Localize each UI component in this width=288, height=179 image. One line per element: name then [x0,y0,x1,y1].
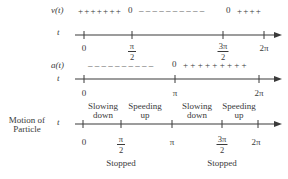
interval-slowing-down: Slowing down [88,102,118,120]
interval-slowing-down: Slowing down [182,102,212,120]
tick-label-0: 0 [82,43,87,53]
stopped-label: Stopped [106,158,136,168]
velocity-zero: 0 [128,5,134,15]
acceleration-sign-positive: + + + + + + + + + [183,60,247,70]
tick-label-pi: π [170,137,175,147]
acceleration-function-label: a(t) [51,60,64,70]
acceleration-sign-negative: – – – – – – – – – – [88,60,153,70]
row-label-line2: Particle [3,125,51,134]
fraction-denominator: 2 [220,146,224,154]
velocity-variable-label: t [57,27,60,37]
interval-line2: down [182,111,212,120]
tick-label-3pi-over-2: 3π 2 [217,135,228,154]
tick-label-pi-over-2: π 2 [117,135,125,154]
axes-layer [0,0,288,179]
acceleration-variable-label: t [57,73,60,83]
tick-label-2pi: 2π [251,137,260,147]
velocity-sign-negative: – – – – – – – – – – [139,5,204,15]
tick-label-2pi: 2π [254,88,263,98]
interval-line2: up [128,111,162,120]
tick-label-pi-over-2: π 2 [128,42,136,61]
interval-line2: up [222,111,256,120]
fraction-numerator: 3π [218,135,227,143]
motion-axis [75,120,282,128]
interval-speeding-up: Speeding up [222,102,256,120]
tick-label-0: 0 [82,137,87,147]
stopped-label: Stopped [207,158,237,168]
fraction-numerator: 3π [219,42,228,50]
velocity-function-label: v(t) [51,5,64,15]
velocity-axis [75,31,282,39]
interval-line2: down [88,111,118,120]
velocity-sign-positive: ++++ [237,6,262,16]
tick-label-2pi: 2π [259,43,268,53]
fraction-denominator: 2 [119,146,123,154]
interval-speeding-up: Speeding up [128,102,162,120]
acceleration-axis [75,75,282,83]
arrow-right-icon [274,121,282,127]
tick-label-3pi-over-2: 3π 2 [218,42,229,61]
velocity-zero: 0 [226,5,232,15]
tick-label-0: 0 [82,88,87,98]
acceleration-zero: 0 [172,59,178,69]
fraction-numerator: π [130,42,134,50]
velocity-sign-positive: +++++++ [78,6,122,16]
motion-row-label: Motion of Particle [3,116,51,134]
arrow-right-icon [274,32,282,38]
tick-label-pi: π [173,88,178,98]
motion-variable-label: t [57,117,60,127]
fraction-numerator: π [119,135,123,143]
arrow-right-icon [274,76,282,82]
